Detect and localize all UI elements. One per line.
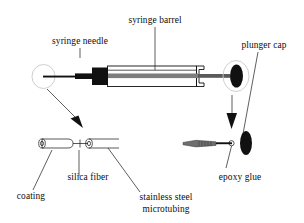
plunger-detail-group: epoxy glue — [183, 131, 261, 182]
leader-microtubing — [108, 148, 140, 192]
label-syringe-barrel: syringe barrel — [128, 15, 181, 25]
label-syringe-needle: syringe needle — [52, 36, 108, 46]
leader-plunger-cap — [243, 52, 258, 134]
left-zoom-arrow-shaft — [47, 89, 76, 118]
zoom-arrow-group — [47, 89, 237, 129]
label-silica-fiber: silica fiber — [67, 172, 109, 182]
syringe-diagram: syringe needle syringe barrel plunger ca… — [0, 0, 304, 223]
plunger-rod-in-barrel — [108, 74, 198, 79]
plunger-detail-rod — [216, 142, 232, 144]
leader-epoxy-glue — [226, 146, 232, 168]
assembled-syringe-group — [32, 61, 249, 92]
label-stainless-steel-line1: stainless steel — [140, 192, 193, 202]
syringe-luer-block — [92, 68, 108, 86]
label-epoxy-glue: epoxy glue — [219, 172, 261, 182]
label-stainless-steel-line2: microtubing — [143, 204, 190, 214]
label-coating: coating — [17, 191, 46, 201]
plunger-detail-cap — [240, 131, 252, 155]
plunger-rod-exposed — [198, 74, 230, 78]
syringe-needle-shaft — [43, 76, 75, 78]
plunger-cap-shape — [230, 65, 243, 88]
fiber-detail-group: coating silica fiber stainless steel mic… — [17, 139, 193, 214]
left-zoom-arrow-head — [71, 116, 84, 129]
right-zoom-arrow-head — [227, 113, 238, 129]
leader-coating — [33, 150, 52, 190]
figure-canvas: syringe needle syringe barrel plunger ca… — [0, 0, 304, 223]
coating-tube-body — [42, 139, 73, 148]
label-plunger-cap: plunger cap — [241, 40, 286, 50]
